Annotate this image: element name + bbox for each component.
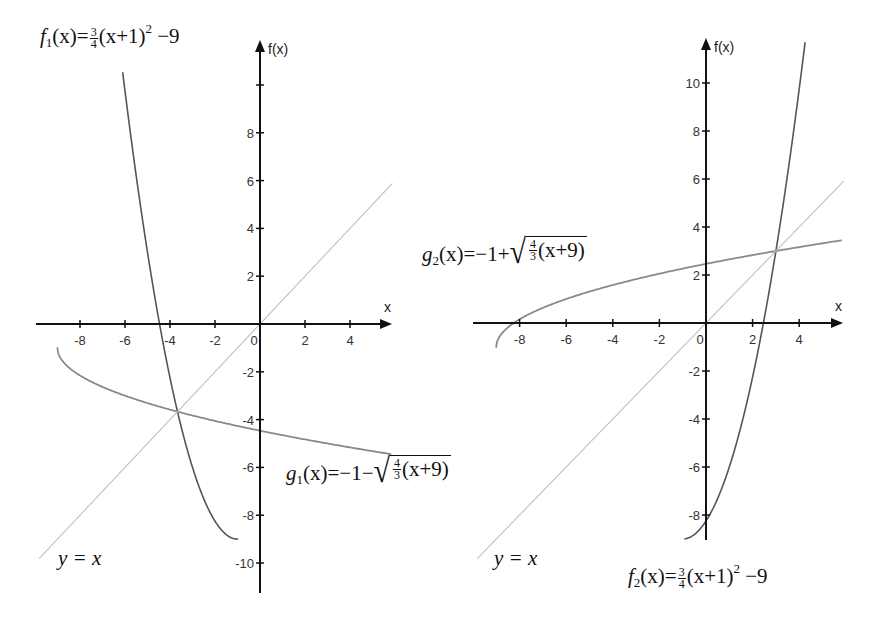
y-tick-label: -2 [242, 365, 254, 380]
label-identity-right: y = x [494, 548, 537, 569]
x-tick-label: 2 [301, 333, 308, 348]
x-axis-arrow-icon [380, 319, 392, 329]
fraction: 34 [90, 27, 98, 50]
x-tick-label: -2 [209, 333, 221, 348]
fraction: 43 [393, 458, 401, 481]
fraction: 34 [678, 567, 686, 590]
x-tick-label: -4 [164, 333, 176, 348]
formula-f1: f1(x)=34(x+1)2 −9 [40, 22, 180, 50]
function-inverse-diagram: -8-6-4-2024-10-8-6-4-22468f(x)x-8-6-4-20… [0, 0, 880, 628]
curve-g1 [58, 348, 391, 454]
formula-g1: g1(x)=−1−√43(x+9) [286, 455, 451, 486]
y-tick-label: -6 [688, 460, 700, 475]
y-tick-label: -6 [242, 460, 254, 475]
y-tick-label: -10 [235, 556, 254, 571]
x-tick-label: -8 [514, 332, 526, 347]
y-tick-label: -8 [242, 508, 254, 523]
y-tick-label: 8 [247, 126, 254, 141]
formula-f2: f2(x)=34(x+1)2 −9 [628, 562, 768, 590]
label-identity-left: y = x [58, 548, 101, 569]
y-tick-label: 4 [693, 220, 700, 235]
y-tick-label: -8 [688, 508, 700, 523]
y-tick-label: 6 [247, 174, 254, 189]
x-axis-label: x [384, 299, 391, 315]
square-root: √43(x+9) [374, 455, 451, 481]
x-tick-label: -2 [654, 332, 666, 347]
x-tick-label: 0 [250, 333, 257, 348]
y-tick-label: 10 [686, 76, 700, 91]
formula-g2: g2(x)=−1+√43(x+9) [422, 236, 587, 267]
y-tick-label: 4 [247, 221, 254, 236]
y-axis-label: f(x) [268, 41, 288, 57]
y-axis-arrow-icon [255, 40, 265, 52]
x-tick-label: -6 [119, 333, 131, 348]
y-axis-label: f(x) [714, 39, 734, 55]
y-axis-arrow-icon [701, 38, 711, 50]
x-tick-label: -8 [74, 333, 86, 348]
y-tick-label: 2 [247, 269, 254, 284]
y-tick-label: 2 [693, 268, 700, 283]
y-tick-label: 6 [693, 172, 700, 187]
x-tick-label: 4 [346, 333, 353, 348]
curve-f [123, 73, 238, 539]
x-tick-label: -4 [607, 332, 619, 347]
x-axis-label: x [835, 298, 842, 314]
plot-canvas: -8-6-4-2024-10-8-6-4-22468f(x)x-8-6-4-20… [0, 0, 880, 628]
fraction: 43 [529, 239, 537, 262]
curve-f [685, 43, 805, 539]
x-axis-arrow-icon [831, 318, 843, 328]
x-tick-label: 0 [696, 332, 703, 347]
square-root: √43(x+9) [510, 236, 587, 262]
y-tick-label: 8 [693, 124, 700, 139]
x-tick-label: 4 [796, 332, 803, 347]
x-tick-label: 2 [749, 332, 756, 347]
y-tick-label: -4 [688, 412, 700, 427]
curve-id [40, 184, 393, 559]
x-tick-label: -6 [560, 332, 572, 347]
y-tick-label: -4 [242, 413, 254, 428]
y-tick-label: -2 [688, 364, 700, 379]
